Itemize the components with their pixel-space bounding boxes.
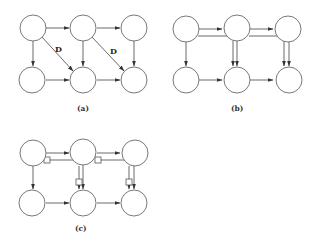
panel-a: D D (a) — [19, 15, 147, 113]
diagram-canvas: D D (a) (b) — [0, 0, 318, 238]
panel-b: (b) — [173, 15, 302, 113]
node-b-top1 — [224, 15, 250, 41]
delay-box-c-4 — [126, 179, 132, 185]
edge-b-top0-bottom1-routed — [198, 36, 237, 66]
node-c-bottom0 — [19, 190, 45, 216]
node-c-bottom2 — [121, 190, 147, 216]
node-a-top0 — [20, 15, 46, 41]
edge-a-top0-bottom1 — [42, 37, 73, 71]
node-a-bottom1 — [70, 67, 96, 93]
edge-a-top1-bottom2 — [92, 37, 124, 71]
node-c-top1 — [70, 139, 96, 165]
node-a-top1 — [70, 15, 96, 41]
node-b-top0 — [173, 16, 199, 42]
node-a-bottom2 — [121, 67, 147, 93]
node-b-bottom1 — [224, 67, 250, 93]
node-a-top2 — [121, 15, 147, 41]
node-a-bottom0 — [19, 67, 45, 93]
panel-c: (c) — [19, 139, 148, 233]
delay-box-c-2 — [95, 157, 101, 163]
edge-label-d2: D — [110, 46, 117, 56]
node-c-top0 — [20, 140, 46, 166]
node-b-top2 — [275, 16, 301, 42]
node-b-bottom0 — [173, 67, 199, 93]
node-c-top2 — [122, 140, 148, 166]
caption-b: (b) — [231, 104, 243, 113]
caption-a: (a) — [77, 104, 89, 113]
edge-label-d1: D — [55, 44, 62, 54]
caption-c: (c) — [75, 224, 87, 233]
node-c-bottom1 — [70, 190, 96, 216]
node-b-bottom2 — [276, 67, 302, 93]
delay-box-c-3 — [76, 179, 82, 185]
